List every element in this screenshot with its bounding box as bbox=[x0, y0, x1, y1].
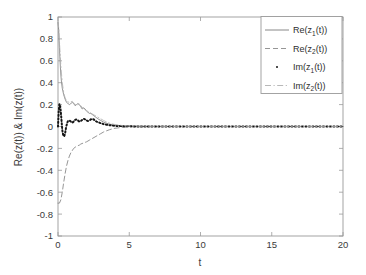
legend-label-2: Re(z2(t)) bbox=[293, 44, 327, 56]
x-tick-label: 5 bbox=[127, 239, 132, 250]
x-tick-label: 10 bbox=[195, 239, 206, 250]
chart-legend[interactable]: Re(z1(t))Re(z2(t))Im(z1(t))Im(z2(t)) bbox=[261, 17, 342, 94]
y-tick-label: -0.8 bbox=[37, 209, 53, 220]
y-tick-label: -0.4 bbox=[37, 165, 53, 176]
x-tick-label: 15 bbox=[266, 239, 277, 250]
figure-container: -1-0.8-0.6-0.4-0.200.20.40.60.81 0510152… bbox=[0, 0, 366, 275]
y-axis-label: Re(z(t)) & Im(z(t)) bbox=[13, 88, 24, 166]
chart-canvas: -1-0.8-0.6-0.4-0.200.20.40.60.81 0510152… bbox=[0, 0, 366, 275]
y-tick-label: 1 bbox=[48, 11, 53, 22]
legend-label-4: Im(z2(t)) bbox=[293, 81, 326, 93]
legend-label-3: Im(z1(t)) bbox=[293, 62, 326, 74]
x-axis-label: t bbox=[199, 257, 202, 268]
y-tick-label: 0.2 bbox=[40, 99, 53, 110]
y-tick-label: 0 bbox=[48, 121, 53, 132]
x-tick-label: 0 bbox=[55, 239, 60, 250]
legend-marker-3 bbox=[276, 66, 278, 68]
y-tick-label: 0.8 bbox=[40, 33, 53, 44]
y-tick-label: -1 bbox=[45, 230, 53, 241]
x-tick-label: 20 bbox=[338, 239, 349, 250]
legend-label-1: Re(z1(t)) bbox=[293, 25, 327, 37]
y-tick-label: -0.2 bbox=[37, 143, 53, 154]
y-tick-label: -0.6 bbox=[37, 187, 53, 198]
y-tick-label: 0.6 bbox=[40, 55, 53, 66]
y-tick-label: 0.4 bbox=[40, 77, 53, 88]
